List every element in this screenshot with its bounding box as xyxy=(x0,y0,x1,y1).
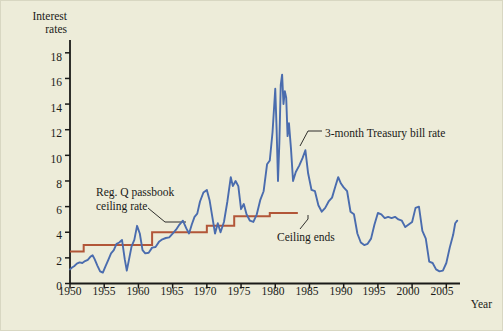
leader-line-reg-q xyxy=(148,208,186,222)
leader-line-tbill xyxy=(300,131,322,146)
chart-canvas xyxy=(0,0,503,331)
series-3month-treasury-bill xyxy=(70,75,457,273)
chart-figure: Interest rates Year 18 16 14 12 10 8 6 4… xyxy=(0,0,503,331)
leader-line-ceiling-ends xyxy=(300,215,308,229)
series-reg-q-ceiling-rate xyxy=(70,213,298,251)
